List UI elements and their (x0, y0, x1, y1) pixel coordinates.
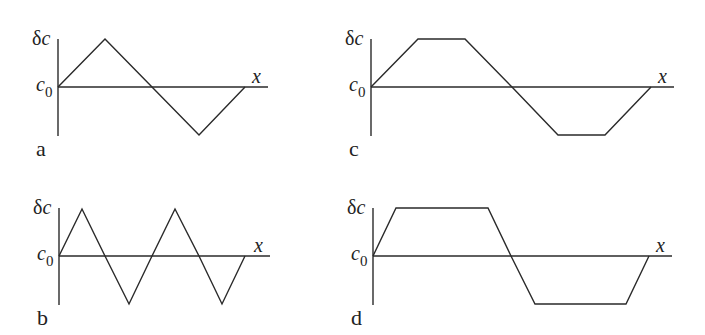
x-axis-label: x (657, 65, 667, 87)
y-axis-label: δc (347, 196, 365, 218)
y-axis-label: δc (33, 196, 51, 218)
panel-b: δcc0xb (33, 196, 270, 330)
panel-label: d (351, 305, 362, 330)
y-axis-label: δc (32, 27, 50, 49)
x-axis-label: x (253, 234, 263, 256)
baseline-label: c0 (36, 73, 52, 100)
x-axis-label: x (655, 234, 665, 256)
panel-d: δcc0xd (347, 196, 672, 330)
y-axis-label: δc (345, 27, 363, 49)
baseline-label: c0 (349, 73, 365, 100)
baseline-label: c0 (351, 242, 367, 269)
panel-label: a (36, 136, 46, 161)
panel-label: b (37, 305, 48, 330)
panel-c: δcc0xc (345, 27, 674, 161)
x-axis-label: x (251, 65, 261, 87)
figure-canvas: δcc0xaδcc0xbδcc0xcδcc0xd (0, 0, 705, 335)
panel-label: c (349, 136, 359, 161)
baseline-label: c0 (37, 242, 53, 269)
panel-a: δcc0xa (32, 27, 268, 161)
